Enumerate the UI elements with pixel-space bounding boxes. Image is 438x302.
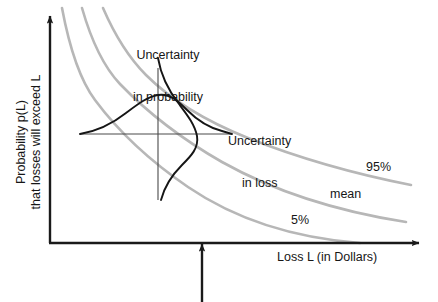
annotation-uncertainty-in-loss: Uncertainty in loss bbox=[228, 106, 348, 218]
x-axis-label: Loss L (in Dollars) bbox=[277, 250, 377, 264]
annotation-uncertainty-in-probability-line2: in probability bbox=[103, 90, 233, 104]
risk-exceedance-diagram: Probability p(L) that losses will exceed… bbox=[0, 0, 438, 302]
curve-label-5-percent: 5% bbox=[291, 213, 309, 227]
annotation-uncertainty-in-loss-line1: Uncertainty bbox=[228, 134, 348, 148]
y-axis-label: Probability p(L) that losses will exceed… bbox=[14, 62, 44, 222]
y-axis-label-line2: that losses will exceed L bbox=[29, 62, 44, 222]
annotation-uncertainty-in-probability: Uncertainty in probability bbox=[103, 20, 233, 132]
curve-label-95-percent: 95% bbox=[366, 160, 391, 174]
annotation-uncertainty-in-probability-line1: Uncertainty bbox=[103, 48, 233, 62]
y-axis-label-line1: Probability p(L) bbox=[14, 62, 29, 222]
curve-label-mean: mean bbox=[330, 187, 361, 201]
